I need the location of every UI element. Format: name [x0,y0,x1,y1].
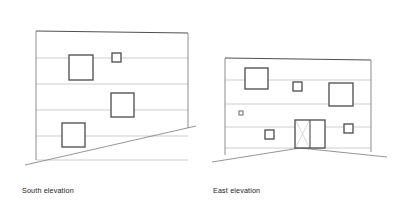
east-elevation-caption: East elevation [213,186,260,195]
south-window-lower-left [62,123,85,147]
east-elevation-group [212,58,387,162]
east-window-small-right [344,124,353,133]
east-window-tiny-left [239,111,243,115]
south-wall-top-edge [36,31,188,33]
east-glazed-double-door [295,120,325,148]
east-wall-top-edge [225,58,371,60]
east-window-small-top-mid [293,82,302,91]
east-ground-line-right [300,148,387,157]
east-window-small-left [265,130,274,139]
south-window-middle [111,93,134,117]
east-window-upper-right [329,83,353,106]
south-window-upper-left [69,55,93,80]
south-window-small-upper [112,53,121,62]
south-elevation-caption: South elevation [22,186,74,195]
east-window-upper-left [245,68,268,89]
south-elevation-group [25,31,196,165]
elevation-drawing-sheet: South elevation East elevation [0,0,393,216]
south-ground-line [25,126,196,165]
elevation-drawings-svg [0,0,393,216]
